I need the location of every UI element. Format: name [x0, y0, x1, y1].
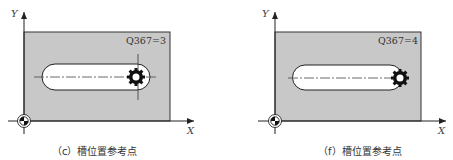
figure-c: Q367=3 Y X: [8, 8, 195, 136]
parameter-label: Q367=3: [126, 35, 166, 46]
x-axis-label: X: [186, 125, 195, 136]
x-axis-label: X: [437, 125, 446, 136]
y-axis-label: Y: [11, 8, 19, 19]
parameter-label: Q367=4: [378, 35, 418, 46]
y-axis-label: Y: [262, 8, 270, 19]
slot: [293, 65, 403, 90]
figure-caption-f: （f）槽位置参考点: [318, 143, 402, 158]
origin-icon: [18, 115, 31, 128]
figure-f: Q367=4 Y X: [258, 8, 446, 136]
figure-caption-c: （c）槽位置参考点: [52, 143, 138, 158]
milling-cutter-icon: [391, 69, 409, 87]
milling-cutter-icon: [127, 68, 145, 86]
origin-icon: [269, 115, 282, 128]
diagram-canvas: Q367=3 Y X: [0, 0, 453, 160]
